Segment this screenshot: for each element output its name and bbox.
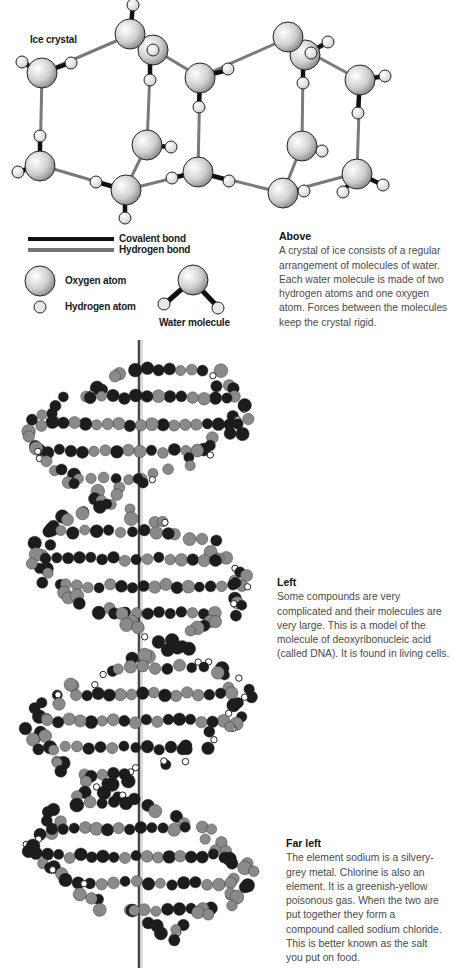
water-molecule-icon	[158, 265, 224, 314]
caption-far-left: Far left The element sodium is a silvery…	[286, 836, 446, 966]
caption-left-body: Some compounds are very complicated and …	[277, 590, 452, 661]
legend: Covalent bond Hydrogen bond Oxygen atom …	[0, 225, 270, 345]
ice-crystal-title: Ice crystal	[30, 34, 77, 45]
hydrogen-atom-icon	[34, 301, 46, 313]
legend-oxygen-atom: Oxygen atom	[65, 275, 126, 286]
dna-model-illustration	[0, 340, 275, 975]
caption-far-left-heading: Far left	[286, 836, 446, 850]
ice-crystal-diagram: Ice crystal	[0, 0, 443, 230]
caption-far-left-body: The element sodium is a silvery-grey met…	[286, 851, 446, 965]
caption-left: Left Some compounds are very complicated…	[277, 575, 452, 662]
oxygen-atom-icon	[25, 266, 55, 296]
dna-model	[0, 340, 275, 975]
legend-hydrogen-atom: Hydrogen atom	[65, 301, 136, 312]
caption-above-body: A crystal of ice consists of a regular a…	[279, 244, 454, 330]
caption-above-heading: Above	[279, 229, 454, 243]
caption-left-heading: Left	[277, 575, 452, 589]
legend-water-molecule: Water molecule	[159, 317, 230, 328]
caption-above: Above A crystal of ice consists of a reg…	[279, 229, 454, 330]
